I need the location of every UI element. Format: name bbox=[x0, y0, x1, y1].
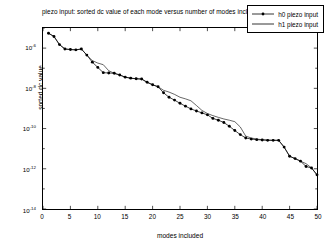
x-tick-label: 0 bbox=[33, 213, 51, 220]
x-tick-label: 40 bbox=[254, 213, 272, 220]
x-axis-label: modes included bbox=[42, 232, 318, 239]
x-tick-label: 45 bbox=[281, 213, 299, 220]
y-tick-label: 10-12 bbox=[10, 165, 36, 173]
x-tick-label: 50 bbox=[309, 213, 327, 220]
x-tick-label: 35 bbox=[226, 213, 244, 220]
legend-line-icon bbox=[251, 19, 275, 29]
legend: h0 piezo input h1 piezo input bbox=[247, 5, 324, 33]
x-tick-label: 15 bbox=[116, 213, 134, 220]
x-tick-label: 20 bbox=[143, 213, 161, 220]
y-tick-label: 10-8 bbox=[10, 84, 36, 92]
figure-canvas: piezo input: sorted dc value of each mod… bbox=[0, 0, 330, 251]
legend-marker-line-icon bbox=[251, 9, 275, 19]
x-tick-label: 25 bbox=[171, 213, 189, 220]
x-tick-label: 5 bbox=[61, 213, 79, 220]
y-tick-label: 10-6 bbox=[10, 43, 36, 51]
x-tick-label: 10 bbox=[88, 213, 106, 220]
plot-area bbox=[42, 27, 318, 210]
plot-series-svg bbox=[43, 28, 317, 209]
x-tick-label: 30 bbox=[199, 213, 217, 220]
legend-label-h1: h1 piezo input bbox=[278, 21, 318, 28]
legend-item-h1: h1 piezo input bbox=[251, 19, 318, 29]
legend-label-h0: h0 piezo input bbox=[278, 11, 318, 18]
y-tick-label: 10-10 bbox=[10, 124, 36, 132]
legend-item-h0: h0 piezo input bbox=[251, 9, 318, 19]
